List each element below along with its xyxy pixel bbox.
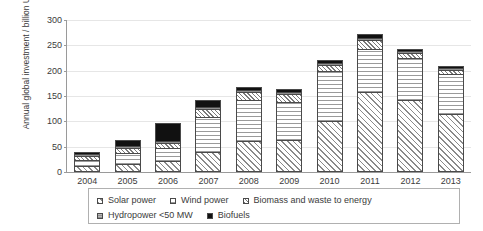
legend-label: Biofuels — [218, 210, 250, 221]
bar-segment — [236, 100, 262, 141]
legend-item[interactable]: Solar power — [97, 195, 156, 206]
x-tick-label: 2007 — [189, 176, 227, 186]
bar-segment — [115, 164, 141, 172]
bar-segment — [397, 100, 423, 172]
bar-segment — [155, 161, 181, 172]
y-tick-label: 200 — [47, 66, 62, 76]
hydro-swatch — [97, 213, 103, 219]
biomass-swatch — [243, 198, 249, 204]
chart-figure: Annual global investment / billion USD 0… — [0, 0, 483, 231]
biofuels-swatch — [207, 213, 213, 219]
bar-stack: 2012 — [397, 49, 423, 172]
plot-area: 050100150200250300 200420052006200720082… — [66, 20, 471, 173]
chart-legend: Solar powerWind powerBiomass and waste t… — [88, 188, 460, 224]
x-tick-label: 2013 — [432, 176, 470, 186]
x-tick-label: 2005 — [109, 176, 147, 186]
legend-item[interactable]: Hydropower <50 MW — [97, 210, 193, 221]
y-tick-label: 300 — [47, 15, 62, 25]
bar-stack: 2011 — [357, 34, 383, 172]
legend-row-1: Solar powerWind powerBiomass and waste t… — [97, 193, 453, 208]
bar-segment — [115, 153, 141, 165]
bar-segment — [195, 152, 221, 172]
bar-segment — [74, 160, 100, 167]
bar-segment — [236, 141, 262, 172]
legend-label: Wind power — [181, 195, 229, 206]
bar-stack: 2004 — [74, 152, 100, 172]
legend-item[interactable]: Biomass and waste to energy — [243, 195, 372, 206]
x-tick-label: 2008 — [230, 176, 268, 186]
legend-item[interactable]: Biofuels — [207, 210, 250, 221]
legend-label: Hydropower <50 MW — [108, 210, 193, 221]
y-axis-title: Annual global investment / billion USD — [21, 0, 32, 137]
bar-stack: 2007 — [195, 100, 221, 172]
y-tick-label: 100 — [47, 116, 62, 126]
y-tick-mark — [64, 172, 67, 173]
bar-segment — [195, 100, 221, 107]
bar-segment — [317, 71, 343, 122]
bar-segment — [438, 114, 464, 172]
bar-segment — [357, 49, 383, 92]
bar-segment — [155, 123, 181, 141]
bar-segment — [357, 92, 383, 172]
bar-segment — [317, 121, 343, 172]
bar-segment — [74, 166, 100, 172]
legend-label: Biomass and waste to energy — [254, 195, 372, 206]
bar-stack: 2009 — [276, 89, 302, 172]
y-tick-label: 0 — [57, 167, 62, 177]
bar-stack: 2010 — [317, 60, 343, 172]
legend-item[interactable]: Wind power — [170, 195, 229, 206]
x-tick-label: 2012 — [391, 176, 429, 186]
bar-segment — [236, 92, 262, 100]
bar-segment — [357, 40, 383, 49]
y-tick-label: 150 — [47, 91, 62, 101]
legend-row-2: Hydropower <50 MWBiofuels — [97, 208, 453, 223]
x-tick-label: 2010 — [311, 176, 349, 186]
bar-group: 2004200520062007200820092010201120122013 — [67, 20, 471, 172]
bar-segment — [195, 109, 221, 117]
y-tick-label: 50 — [52, 142, 62, 152]
bar-segment — [276, 94, 302, 102]
x-tick-label: 2006 — [149, 176, 187, 186]
bar-stack: 2013 — [438, 66, 464, 172]
bar-segment — [115, 140, 141, 147]
bar-segment — [276, 140, 302, 172]
solar-swatch — [97, 198, 103, 204]
y-tick-label: 250 — [47, 40, 62, 50]
bar-stack: 2008 — [236, 87, 262, 172]
wind-swatch — [170, 198, 176, 204]
x-tick-label: 2011 — [351, 176, 389, 186]
bar-segment — [155, 148, 181, 162]
x-tick-label: 2009 — [270, 176, 308, 186]
bar-segment — [438, 74, 464, 114]
bar-segment — [397, 58, 423, 100]
legend-label: Solar power — [108, 195, 156, 206]
bar-stack: 2006 — [155, 123, 181, 172]
bar-segment — [195, 117, 221, 152]
bar-stack: 2005 — [115, 140, 141, 172]
x-tick-label: 2004 — [68, 176, 106, 186]
bar-segment — [276, 102, 302, 141]
